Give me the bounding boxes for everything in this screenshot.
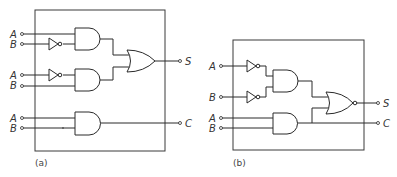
input-terminal — [21, 74, 24, 77]
output-s-label: S — [383, 98, 390, 109]
output-terminal — [179, 122, 182, 125]
output-c-label: C — [383, 118, 390, 129]
wire — [298, 108, 330, 123]
wire — [260, 87, 273, 97]
output-terminal — [179, 60, 182, 63]
not-gate-icon — [49, 69, 62, 81]
input-terminal — [21, 85, 24, 88]
input-b-label: B — [10, 80, 17, 91]
output-terminal — [377, 102, 380, 105]
and-gate-icon — [75, 69, 100, 91]
panel-a: A B A B A B — [9, 10, 192, 168]
input-terminal — [21, 43, 24, 46]
wire — [260, 66, 273, 76]
input-terminal — [21, 127, 24, 130]
panel-b: A B A B — [208, 40, 390, 168]
not-gate-icon — [247, 60, 260, 72]
and-gate-icon — [75, 112, 100, 135]
or-gate-icon — [127, 50, 155, 72]
output-terminal — [377, 122, 380, 125]
input-b-label: B — [209, 123, 216, 134]
input-a-label: A — [208, 61, 216, 72]
input-terminal — [220, 127, 223, 130]
and-gate-icon — [273, 113, 298, 134]
input-terminal — [220, 96, 223, 99]
input-terminal — [21, 117, 24, 120]
wire — [100, 67, 130, 80]
not-gate-icon — [49, 38, 62, 50]
panel-b-caption: (b) — [233, 158, 246, 168]
wire — [100, 39, 130, 55]
input-b-label: B — [209, 92, 216, 103]
input-terminal — [21, 33, 24, 36]
wire — [298, 81, 329, 97]
nor-gate-icon — [326, 92, 357, 114]
and-gate-icon — [273, 70, 298, 92]
input-b-label: B — [10, 123, 17, 134]
panel-a-caption: (a) — [35, 158, 48, 168]
and-gate-icon — [75, 28, 100, 50]
output-c-label: C — [185, 118, 192, 129]
input-terminal — [220, 65, 223, 68]
output-s-label: S — [185, 56, 192, 67]
not-gate-icon — [247, 91, 260, 103]
input-terminal — [220, 117, 223, 120]
junction-mark — [62, 127, 64, 129]
half-adder-diagrams: A B A B A B — [0, 0, 397, 177]
input-b-label: B — [10, 39, 17, 50]
